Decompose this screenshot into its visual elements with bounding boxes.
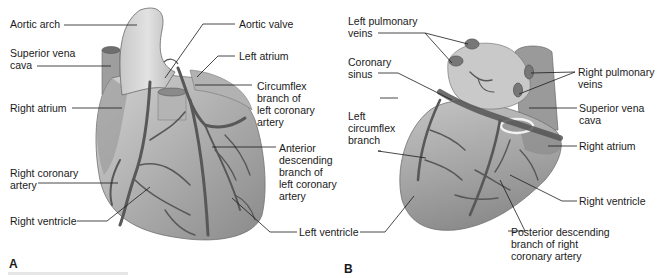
label-right-coronary-artery: Right coronary artery [10,167,78,191]
panel-letter-b: B [344,262,353,276]
label-right-ventricle-b: Right ventricle [579,195,646,207]
label-superior-vena-cava-b: Superior vena cava [579,102,644,126]
panel-letter-a: A [9,257,18,271]
label-left-circumflex-branch: Left circumflex branch [348,110,395,146]
caption-remnant [8,272,128,275]
label-left-ventricle: Left ventricle [299,226,359,238]
label-right-ventricle-a: Right ventricle [10,215,77,227]
label-left-atrium: Left atrium [239,50,289,62]
label-right-atrium-b: Right atrium [579,140,636,152]
label-anterior-descending-branch: Anterior descending branch of left coron… [279,142,337,202]
label-right-atrium-a: Right atrium [10,102,67,114]
label-posterior-descending-branch: Posterior descending branch of right cor… [511,226,610,262]
label-superior-vena-cava-a: Superior vena cava [10,47,75,71]
label-coronary-sinus: Coronary sinus [348,56,391,80]
label-right-pulmonary-veins: Right pulmonary veins [578,66,654,90]
label-aortic-arch: Aortic arch [10,18,60,30]
label-aortic-valve: Aortic valve [239,18,293,30]
heart-b [400,39,562,230]
label-left-pulmonary-veins: Left pulmonary veins [348,15,417,39]
heart-coronary-figure: Aortic arch Superior vena cava Right atr… [0,0,667,278]
label-circumflex-branch: Circumflex branch of left coronary arter… [257,80,315,128]
